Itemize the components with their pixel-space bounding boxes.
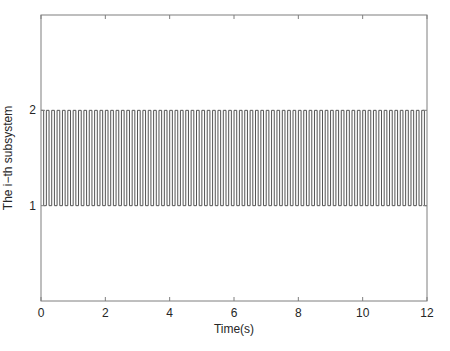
x-tick-label: 4 — [166, 306, 173, 320]
y-tick-label: 1 — [29, 199, 36, 213]
x-tick-label: 6 — [231, 306, 238, 320]
y-tick-label: 2 — [29, 103, 36, 117]
y-axis-label: The i−th subsystem — [1, 106, 15, 210]
x-axis-label: Time(s) — [214, 322, 254, 336]
x-tick-label: 2 — [102, 306, 109, 320]
x-tick-label: 0 — [38, 306, 45, 320]
x-tick-label: 8 — [295, 306, 302, 320]
x-tick-label: 10 — [356, 306, 370, 320]
x-tick-label: 12 — [420, 306, 434, 320]
chart-figure: 024681012 12 Time(s) The i−th subsystem — [0, 0, 450, 351]
